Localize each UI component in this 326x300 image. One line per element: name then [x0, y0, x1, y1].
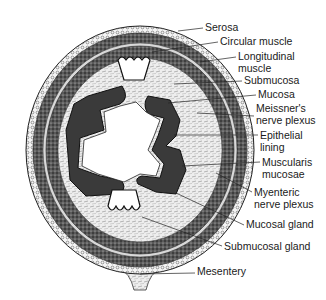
label-circular-muscle: Circular muscle: [220, 36, 292, 48]
label-epithelial-lining: Epitheliallining: [260, 130, 303, 153]
label-serosa: Serosa: [205, 22, 238, 34]
label-submucosa: Submucosa: [244, 75, 299, 87]
label-longitudinal-muscle: Longitudinalmuscle: [238, 51, 295, 74]
label-myenteric-nerve-plexus: Myentericnerve plexus: [254, 187, 314, 210]
label-meissners-nerve-plexus: Meissner'snerve plexus: [256, 103, 316, 126]
label-muscularis-mucosae: Muscularismucosae: [262, 157, 312, 180]
villi-bottom: [108, 190, 140, 210]
label-submucosal-gland: Submucosal gland: [224, 241, 310, 253]
label-mucosa: Mucosa: [258, 89, 295, 101]
label-mesentery: Mesentery: [197, 266, 246, 278]
label-mucosal-gland: Mucosal gland: [246, 219, 314, 231]
villi-top: [118, 57, 150, 80]
